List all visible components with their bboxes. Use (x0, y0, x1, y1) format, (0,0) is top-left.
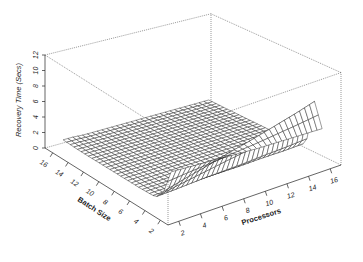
z-tick-label: 6 (32, 99, 39, 103)
batch-size-tick-label: 4 (133, 217, 140, 225)
processors-tick-label: 8 (245, 206, 251, 214)
batch-size-tick-label: 16 (39, 158, 49, 168)
z-tick-label: 12 (32, 51, 39, 59)
processors-tick-label: 16 (329, 176, 339, 185)
processors-tick-label: 2 (179, 229, 186, 237)
batch-size-tick-label: 12 (70, 178, 80, 188)
processors-tick-label: 14 (308, 183, 318, 192)
z-tick-label: 0 (32, 146, 39, 150)
z-axis: 024681012 (32, 51, 46, 150)
processors-axis: 246810121416 (179, 169, 339, 237)
processors-tick-label: 4 (201, 221, 207, 229)
batch-size-tick-label: 6 (117, 208, 124, 216)
z-tick-label: 8 (32, 84, 39, 88)
z-axis-title: Recovery Time (Secs) (14, 62, 23, 137)
processors-tick-label: 10 (264, 198, 274, 207)
surface-plot: 024681012 246810121416 246810121416 Reco… (0, 0, 363, 262)
processors-tick-label: 6 (223, 214, 229, 222)
z-tick-label: 2 (32, 130, 39, 135)
processors-tick-label: 12 (286, 191, 296, 200)
batch-size-tick-label: 10 (85, 187, 95, 197)
surface-mesh (63, 100, 322, 196)
batch-size-tick-label: 8 (102, 198, 109, 206)
z-tick-label: 10 (32, 67, 39, 75)
z-tick-label: 4 (32, 115, 39, 119)
batch-size-tick-label: 14 (54, 168, 64, 178)
batch-size-tick-label: 2 (147, 226, 155, 235)
